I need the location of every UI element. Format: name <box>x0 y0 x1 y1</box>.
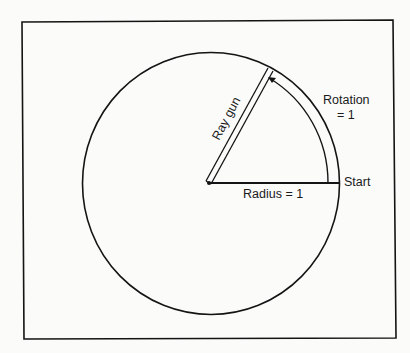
ray-gun-rotation-diagram: Ray gun Rotation = 1 Start Radius = 1 <box>0 0 410 353</box>
radius-label: Radius = 1 <box>243 187 303 201</box>
rotation-label: Rotation <box>323 93 370 107</box>
start-label: Start <box>344 175 371 189</box>
center-point <box>207 181 211 185</box>
rotation-value-label: = 1 <box>337 108 355 122</box>
rotation-arc <box>269 78 328 183</box>
